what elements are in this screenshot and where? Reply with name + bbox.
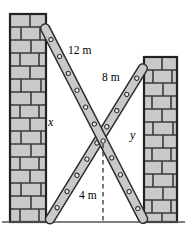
label-ladder-length-right: 8 m — [102, 71, 120, 83]
left-wall-bricks — [10, 14, 46, 222]
ladders-figure: 12 m 8 m x y 4 m — [0, 0, 187, 233]
left-brick-wall — [10, 14, 46, 222]
label-height-left-wall: x — [47, 115, 54, 129]
right-brick-wall — [144, 57, 177, 222]
label-height-right-wall: y — [129, 128, 136, 142]
label-ladder-length-left: 12 m — [68, 44, 91, 56]
right-wall-bricks — [144, 57, 177, 222]
label-crossing-height: 4 m — [79, 189, 97, 201]
ladders-diagram: 12 m 8 m x y 4 m — [0, 0, 187, 233]
